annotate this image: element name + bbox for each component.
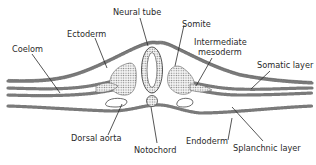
neural-tube	[142, 47, 163, 93]
dorsal-aorta-left	[106, 98, 127, 107]
somite-left	[110, 63, 137, 95]
embryo-cross-section-diagram: Neural tube Ectoderm Somite Intermediate…	[0, 0, 316, 165]
diagram-canvas: Neural tube Ectoderm Somite Intermediate…	[0, 0, 316, 165]
label-intermediate-line1: Intermediate	[194, 37, 247, 47]
label-somite: Somite	[182, 19, 211, 29]
label-intermediate-line2: mesoderm	[198, 47, 242, 57]
dorsal-aorta-right	[177, 98, 193, 107]
label-notochord: Notochord	[134, 145, 176, 155]
label-dorsal-aorta: Dorsal aorta	[71, 133, 121, 143]
label-splanchnic-layer: Splanchnic layer	[233, 143, 301, 153]
notochord	[147, 96, 158, 107]
label-somatic-layer: Somatic layer	[257, 60, 314, 70]
label-endoderm: Endoderm	[186, 136, 228, 146]
endoderm-layer	[8, 105, 312, 113]
label-neural-tube: Neural tube	[113, 7, 161, 17]
label-coelom: Coelom	[12, 44, 43, 54]
label-ectoderm: Ectoderm	[67, 29, 106, 39]
